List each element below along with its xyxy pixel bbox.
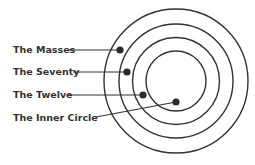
- concentric-circles-diagram: The Masses The Seventy The Twelve The In…: [0, 0, 255, 165]
- dot-masses: [116, 46, 123, 53]
- label-inner-circle: The Inner Circle: [13, 112, 98, 123]
- labels: The Masses The Seventy The Twelve The In…: [13, 44, 98, 123]
- label-masses: The Masses: [13, 44, 76, 55]
- ring-outer: [104, 9, 248, 153]
- ring-second: [119, 24, 233, 138]
- rings: [104, 9, 248, 153]
- dot-seventy: [123, 68, 130, 75]
- label-twelve: The Twelve: [13, 89, 73, 100]
- dot-twelve: [139, 91, 146, 98]
- dot-inner-circle: [172, 98, 179, 105]
- label-seventy: The Seventy: [13, 66, 80, 77]
